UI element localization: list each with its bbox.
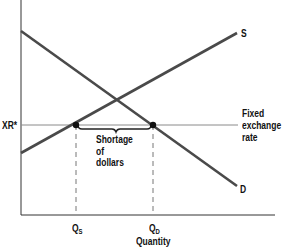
qs-tick-label: QS (72, 223, 83, 237)
demand-curve (21, 31, 237, 186)
fixed-label-line-3: rate (242, 132, 258, 143)
shortage-label-line-1: Shortage (96, 134, 133, 145)
fixed-label-line-2: exchange (242, 120, 281, 131)
y-value-label: XR* (2, 120, 17, 131)
fixed-label-line-1: Fixed (242, 108, 264, 119)
x-axis-label: Quantity (136, 236, 170, 247)
qd-sub: D (156, 228, 160, 235)
qs-point (73, 122, 79, 128)
qs-main: Q (72, 223, 79, 234)
qd-point (150, 122, 156, 128)
qs-sub: S (79, 228, 83, 235)
shortage-brace (78, 125, 151, 132)
demand-label: D (240, 184, 246, 195)
supply-label: S (241, 28, 247, 39)
shortage-label-line-2: of dollars (96, 146, 124, 168)
qd-tick-label: QD (149, 223, 160, 237)
qd-main: Q (149, 223, 156, 234)
